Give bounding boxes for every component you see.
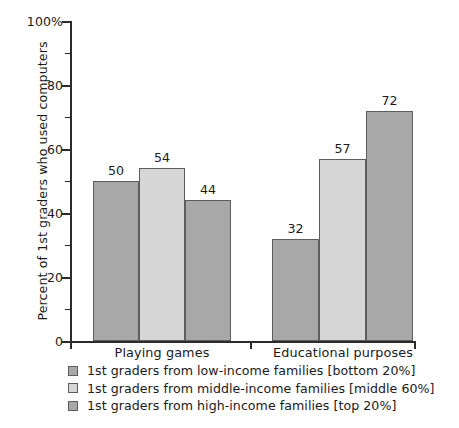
x-category-label-playing-games: Playing games <box>93 345 231 360</box>
bar-value-edu-high: 72 <box>366 93 413 108</box>
x-axis-spine <box>70 341 415 343</box>
y-tick-label-80: 80 <box>47 78 63 93</box>
legend-item-high-income: 1st graders from high-income families [t… <box>68 397 435 415</box>
bar-value-edu-middle: 57 <box>319 141 366 156</box>
x-tick-start <box>70 341 72 349</box>
x-tick-end <box>414 341 416 349</box>
y-tick-label-40: 40 <box>47 206 63 221</box>
bar-edu-middle <box>319 159 366 341</box>
legend-swatch-low-income <box>68 366 78 376</box>
bar-value-games-high: 44 <box>185 182 231 197</box>
bar-value-games-low: 50 <box>93 163 139 178</box>
y-tick-label-100: 100% <box>27 14 63 29</box>
legend-label-low-income: 1st graders from low-income families [bo… <box>87 363 415 378</box>
bar-games-high <box>185 200 231 341</box>
legend-swatch-middle-income <box>68 383 78 393</box>
x-tick-middle <box>250 341 252 349</box>
legend-label-high-income: 1st graders from high-income families [t… <box>87 398 396 413</box>
bar-value-edu-low: 32 <box>272 221 319 236</box>
x-category-label-educational-purposes: Educational purposes <box>272 345 414 360</box>
legend-item-middle-income: 1st graders from middle-income families … <box>68 380 435 398</box>
bar-value-games-middle: 54 <box>139 150 185 165</box>
legend-item-low-income: 1st graders from low-income families [bo… <box>68 362 435 380</box>
bar-edu-low <box>272 239 319 341</box>
bar-games-low <box>93 181 139 341</box>
legend-swatch-high-income <box>68 401 78 411</box>
bar-chart: Percent of 1st graders who used computer… <box>0 0 459 428</box>
y-tick-label-60: 60 <box>47 142 63 157</box>
legend-label-middle-income: 1st graders from middle-income families … <box>87 381 435 396</box>
plot-area: 50 54 44 32 57 72 <box>70 21 415 341</box>
legend: 1st graders from low-income families [bo… <box>68 362 435 415</box>
bar-edu-high <box>366 111 413 341</box>
y-tick-label-20: 20 <box>47 270 63 285</box>
bar-games-middle <box>139 168 185 341</box>
